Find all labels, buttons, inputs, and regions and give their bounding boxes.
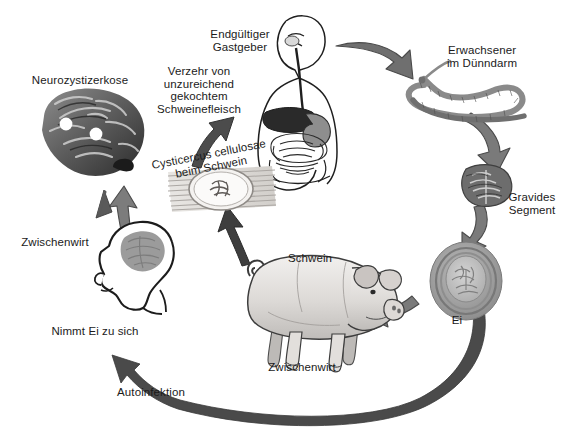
label-pig-intermediate-host: Zwischenwirt (250, 361, 354, 374)
label-adult-in-small-intestine: Erwachsener im Dünndarm (430, 44, 534, 69)
label-human-intermediate-host: Zwischenwirt (14, 236, 96, 249)
brain-neurocysticercosis-art (42, 88, 144, 176)
label-definitive-host: Endgültiger Gastgeber (191, 28, 289, 53)
arrow-human-to-tapeworm (336, 43, 413, 79)
human-head-profile-art (95, 222, 174, 314)
label-autoinfection: Autoinfektion (106, 386, 196, 399)
lifecycle-diagram: Neurozystizerkose Verzehr von unzureiche… (0, 0, 570, 431)
cyst-lesion (90, 128, 103, 141)
label-pig: Schwein (278, 252, 342, 265)
label-egg: Ei (440, 314, 474, 327)
arrow-pig-to-cysticercus (218, 206, 250, 266)
label-neurocysticercosis: Neurozystizerkose (14, 74, 146, 87)
label-gravid-segment: Gravides Segment (497, 191, 567, 216)
label-consumption-undercooked-pork: Verzehr von unzureichend gekochtem Schwe… (143, 65, 255, 115)
pig-art (248, 255, 404, 371)
adult-tapeworm-art (409, 61, 524, 122)
label-ingests-egg: Nimmt Ei zu sich (43, 325, 147, 338)
arrow-head-to-brain (96, 190, 112, 218)
taenia-egg-art (430, 242, 502, 320)
cyst-lesion (60, 118, 73, 131)
